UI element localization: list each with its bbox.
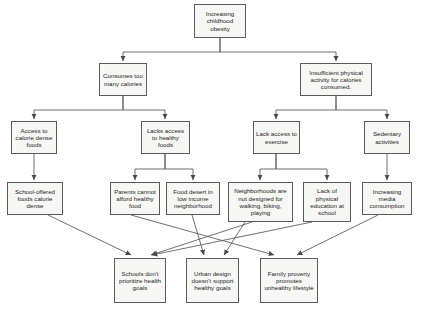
node-schools-dont-prioritize-health[interactable]: Schools don't prioritize health goals — [114, 258, 166, 303]
node-schools-dont-prioritize-health-label: Schools don't prioritize health goals — [117, 270, 163, 292]
node-school-offered-foods[interactable]: School-offered foods calorie dense — [7, 182, 63, 215]
node-family-poverty-label: Family proverty promotes unhealthy lifes… — [263, 270, 315, 292]
node-food-desert[interactable]: Food desert in low income neighborhood — [166, 182, 220, 215]
edge-calories-access-dense — [34, 96, 123, 119]
node-access-to-calorie-dense-foods-label: Access to calorie dense foods — [14, 127, 54, 149]
edge-calories-lacks-access — [123, 96, 165, 119]
node-lack-of-physical-education-label: Lack of physical education at school — [306, 187, 348, 216]
edge-inactivity-lack-exercise — [276, 96, 336, 119]
node-family-poverty[interactable]: Family proverty promotes unhealthy lifes… — [260, 258, 318, 303]
node-sedentary-activities[interactable]: Sedentary activities — [364, 121, 410, 154]
edge-lacks-access-food-desert — [165, 154, 193, 180]
edge-neighborhoods-urban-design — [224, 222, 245, 255]
edge-neighborhoods-schools-goals — [151, 222, 252, 255]
node-lack-of-physical-education[interactable]: Lack of physical education at school — [303, 182, 351, 222]
node-lacks-access-to-healthy-foods-label: Lacks access to healthy foods — [144, 127, 187, 149]
node-increasing-media-consumption-label: Increasing media consumption — [365, 188, 409, 210]
node-access-to-calorie-dense-foods[interactable]: Access to calorie dense foods — [11, 121, 57, 154]
edge-root-inactivity — [220, 38, 336, 61]
node-sedentary-activities-label: Sedentary activities — [367, 130, 407, 145]
node-root[interactable]: Increasing childhood obesity — [194, 4, 246, 38]
node-urban-design[interactable]: Urban design doesn't support healthy goa… — [186, 258, 239, 303]
node-increasing-media-consumption[interactable]: Increasing media consumption — [362, 182, 412, 215]
node-lack-access-to-exercise[interactable]: Lack access to exercise — [253, 121, 300, 154]
node-root-label: Increasing childhood obesity — [197, 10, 243, 32]
node-lack-access-to-exercise-label: Lack access to exercise — [256, 130, 297, 145]
edge-school-foods-schools-goals — [48, 215, 131, 255]
node-food-desert-label: Food desert in low income neighborhood — [169, 188, 217, 210]
node-insufficient-physical-activity-label: Insufficient physical activity for calor… — [303, 69, 369, 91]
node-lacks-access-to-healthy-foods[interactable]: Lacks access to healthy foods — [141, 121, 190, 154]
edge-root-calories — [123, 38, 220, 61]
edge-lack-exercise-neighborhoods — [260, 154, 276, 180]
node-insufficient-physical-activity[interactable]: Insufficient physical activity for calor… — [300, 63, 372, 96]
edge-inactivity-sedentary — [336, 96, 387, 119]
edge-no-pe-schools-goals — [152, 222, 312, 255]
edge-lack-exercise-no-pe — [276, 154, 327, 180]
node-parents-cannot-afford[interactable]: Parents cannot afford healthy food — [110, 182, 160, 215]
node-school-offered-foods-label: School-offered foods calorie dense — [10, 188, 60, 210]
node-parents-cannot-afford-label: Parents cannot afford healthy food — [113, 188, 157, 210]
node-neighborhoods-not-designed[interactable]: Neighborhoods are not designed for walki… — [228, 182, 293, 222]
flowchart-canvas: Increasing childhood obesity Consumes to… — [0, 0, 424, 311]
node-consumes-too-many-calories-label: Consumes too many calories — [102, 72, 144, 87]
node-urban-design-label: Urban design doesn't support healthy goa… — [189, 270, 236, 292]
node-neighborhoods-not-designed-label: Neighborhoods are not designed for walki… — [231, 187, 290, 216]
edge-lacks-access-parents — [135, 154, 165, 180]
node-consumes-too-many-calories[interactable]: Consumes too many calories — [99, 63, 147, 96]
